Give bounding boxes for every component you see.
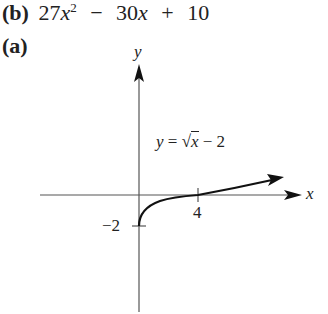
x-tick-label: 4	[193, 203, 202, 223]
eq-lhs: y	[156, 132, 164, 151]
curve	[139, 180, 272, 226]
y-axis-label: y	[134, 42, 142, 62]
graph	[0, 0, 328, 314]
y-tick-label: −2	[102, 216, 120, 236]
curve-equation: y = √x − 2	[156, 132, 225, 152]
x-axis-label: x	[306, 184, 314, 204]
eq-var: x	[191, 131, 199, 151]
eq-rest: − 2	[203, 132, 225, 151]
sqrt-icon: √	[182, 132, 191, 151]
eq-equals: =	[168, 132, 178, 151]
